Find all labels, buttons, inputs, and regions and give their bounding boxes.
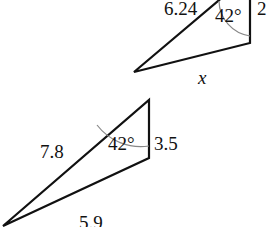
bottom-triangle: 7.8 42° 3.5 5.9 <box>3 100 178 227</box>
bottom-angle-label: 42° <box>108 133 135 154</box>
top-vertical-side-label: 2 <box>257 0 267 19</box>
bottom-bottom-side-label: 5.9 <box>79 212 103 227</box>
top-hypotenuse-label: 6.24 <box>164 0 198 19</box>
top-bottom-side-label: x <box>197 67 207 88</box>
top-angle-label: 42° <box>215 5 242 26</box>
similar-triangles-diagram: 6.24 42° 2 x 7.8 42° 3.5 5.9 <box>0 0 269 227</box>
bottom-vertical-side-label: 3.5 <box>154 133 178 154</box>
bottom-hypotenuse-label: 7.8 <box>40 141 64 162</box>
top-triangle: 6.24 42° 2 x <box>134 0 267 88</box>
